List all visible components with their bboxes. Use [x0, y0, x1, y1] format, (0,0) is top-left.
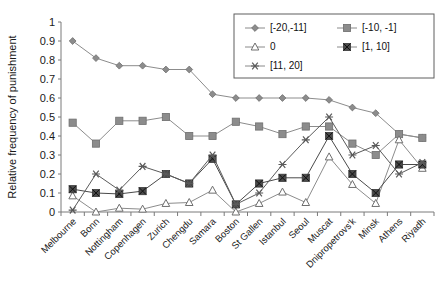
data-point-triangle — [279, 188, 287, 195]
series-line-4 — [73, 117, 423, 210]
data-point-diamond — [279, 95, 286, 102]
data-point-triangle — [209, 186, 217, 193]
data-point-square — [92, 140, 99, 147]
data-point-diamond — [232, 95, 239, 102]
series-2 — [69, 136, 426, 215]
data-point-diamond — [139, 62, 146, 69]
data-point-diamond — [69, 38, 76, 45]
legend-label: [-10, -1] — [362, 22, 397, 33]
data-point-square — [209, 132, 216, 139]
line-chart: 00.10.20.30.40.50.60.70.80.91Relative fr… — [0, 0, 446, 293]
y-tick-label: 1 — [49, 16, 55, 28]
data-point-square — [343, 24, 350, 31]
x-tick-label: Melbourne — [39, 216, 79, 256]
data-point-square — [116, 117, 123, 124]
data-point-asterisk — [372, 142, 380, 149]
series-line-3 — [73, 136, 423, 204]
chart-container: 00.10.20.30.40.50.60.70.80.91Relative fr… — [0, 0, 446, 293]
data-point-star — [116, 190, 123, 197]
data-point-square — [419, 134, 426, 141]
data-point-star — [256, 180, 263, 187]
legend-box — [234, 14, 434, 78]
data-point-diamond — [93, 55, 100, 62]
data-point-square — [256, 123, 263, 130]
data-point-star — [395, 161, 402, 168]
data-point-square — [186, 132, 193, 139]
data-point-square — [69, 119, 76, 126]
data-point-triangle — [185, 199, 193, 206]
legend-label: [-20,-11] — [270, 22, 307, 33]
data-point-asterisk — [395, 171, 403, 178]
data-point-square — [302, 123, 309, 130]
data-point-star — [279, 174, 286, 181]
x-tick-label: Samara — [187, 215, 219, 247]
legend-label: 0 — [270, 41, 276, 52]
series-line-2 — [73, 140, 423, 212]
data-point-diamond — [302, 95, 309, 102]
y-tick-label: 0.8 — [40, 54, 55, 66]
data-point-diamond — [163, 66, 170, 73]
data-point-asterisk — [255, 190, 263, 197]
series-3 — [69, 132, 426, 208]
data-point-diamond — [256, 95, 263, 102]
x-tick-label: Athens — [376, 215, 405, 244]
series-line-1 — [73, 117, 423, 155]
data-point-star — [69, 186, 76, 193]
data-point-triangle — [302, 199, 310, 206]
legend-label: [1, 10] — [362, 41, 390, 52]
y-tick-label: 0 — [49, 206, 55, 218]
data-point-square — [372, 151, 379, 158]
series-1 — [69, 113, 426, 158]
data-point-square — [349, 140, 356, 147]
data-point-diamond — [116, 62, 123, 69]
y-tick-label: 0.5 — [40, 111, 55, 123]
data-point-square — [325, 123, 332, 130]
data-point-star — [325, 132, 332, 139]
y-tick-label: 0.4 — [40, 130, 55, 142]
data-point-square — [139, 117, 146, 124]
data-point-triangle — [115, 204, 123, 211]
data-point-triangle — [325, 153, 333, 160]
data-point-diamond — [349, 104, 356, 111]
y-axis-title: Relative frequency of punishment — [6, 35, 18, 198]
y-tick-label: 0.6 — [40, 92, 55, 104]
data-point-asterisk — [348, 152, 356, 159]
data-point-triangle — [372, 199, 380, 206]
data-point-square — [232, 118, 239, 125]
y-tick-label: 0.1 — [40, 187, 55, 199]
data-point-star — [349, 170, 356, 177]
data-point-star — [343, 43, 350, 50]
y-tick-label: 0.2 — [40, 168, 55, 180]
data-point-star — [302, 174, 309, 181]
y-tick-label: 0.7 — [40, 73, 55, 85]
data-point-star — [372, 189, 379, 196]
series-4 — [69, 114, 427, 214]
y-tick-label: 0.9 — [40, 35, 55, 47]
data-point-diamond — [326, 97, 333, 104]
data-point-square — [279, 131, 286, 138]
data-point-star — [92, 189, 99, 196]
data-point-triangle — [255, 199, 263, 206]
data-point-square — [162, 113, 169, 120]
data-point-star — [139, 188, 146, 195]
y-tick-label: 0.3 — [40, 149, 55, 161]
legend-label: [11, 20] — [270, 60, 303, 71]
x-tick-label: Riyadh — [399, 216, 428, 245]
